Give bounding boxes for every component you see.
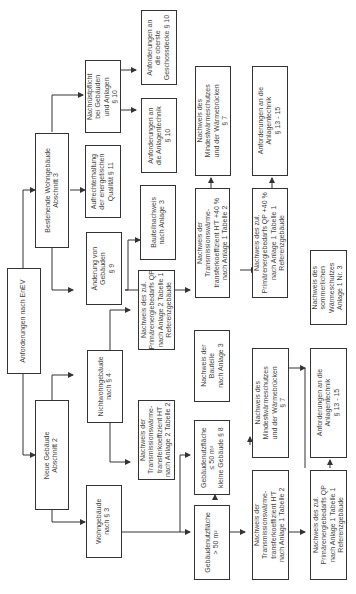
node-aenderung: Änderung von Gebäuden § 9 xyxy=(86,232,122,305)
node-aufrechterhaltung: Aufrechterhaltung der energetischen Qual… xyxy=(85,145,121,218)
node-wg-transmission: Nachweis der Transmissionswärme- transfe… xyxy=(252,470,289,580)
node-nachruestpflicht: Nachrüstpflicht bei Gebäuden und Anlagen… xyxy=(85,60,121,133)
node-root: Anforderungen nach EnEV xyxy=(7,268,41,374)
node-bauteilnachweis: Bauteilnachweis nach Anlage 3 xyxy=(140,185,176,260)
node-aend-anlagentechnik: Anforderungen an die Anlagentechnik § 13… xyxy=(252,66,288,176)
node-bauteile-anl3: Nachweis der Bauteile nach Anlage 3 xyxy=(194,330,230,402)
node-klein: Gebäudenutzfläche ≤ 50 m² kleine Gebäude… xyxy=(194,420,230,495)
node-nwg-primaer: Nachweis des zul. Primärenergiebedarfs Q… xyxy=(138,270,175,350)
node-anf-anlagentechnik-10: Anforderungen an die Anlagentechnik § 10 xyxy=(141,98,177,173)
node-bestehende-wohngebaeude: Bestehende Wohngebäude Abschnitt 3 xyxy=(35,133,69,248)
node-sommerlicher-waermeschutz: Nachweis des sommerlichen Wärmeschutzes … xyxy=(310,250,347,325)
node-wg-primaer: Nachweis des zul. Primärenergiebedarfs Q… xyxy=(310,470,347,580)
flowchart-canvas: Anforderungen nach EnEV Bestehende Wohng… xyxy=(0,0,356,594)
node-nwg-transmission: Nachweis der Transmissionswärme- transfe… xyxy=(138,400,175,480)
node-gross: Gebäudenutzfläche > 50 m² xyxy=(194,505,230,580)
node-anf-geschossdecke: Anforderungen an die oberste Geschossdec… xyxy=(141,10,177,85)
node-nichtwohngebaeude: Nichtwohngebäude nach § 4 xyxy=(87,350,123,423)
node-neue-gebaeude: Neue Gebäude Abschnitt 2 xyxy=(35,400,69,510)
node-aend-primaer: Nachweis des zul. Primärenergiebedarfs Q… xyxy=(252,188,288,298)
node-wohngebaeude: Wohngebäude nach § 3 xyxy=(86,485,122,558)
node-aend-transmission: Nachweis der Transmissionswärme- transfe… xyxy=(195,188,230,298)
node-aend-mindest: Nachweis des Mindestwärmeschutzes und de… xyxy=(195,66,231,176)
node-wg-anlagentechnik: Anforderungen an die Anlagentechnik § 13… xyxy=(310,348,347,458)
node-wg-mindest: Nachweis des Mindestwärmeschutzes und de… xyxy=(252,348,289,458)
